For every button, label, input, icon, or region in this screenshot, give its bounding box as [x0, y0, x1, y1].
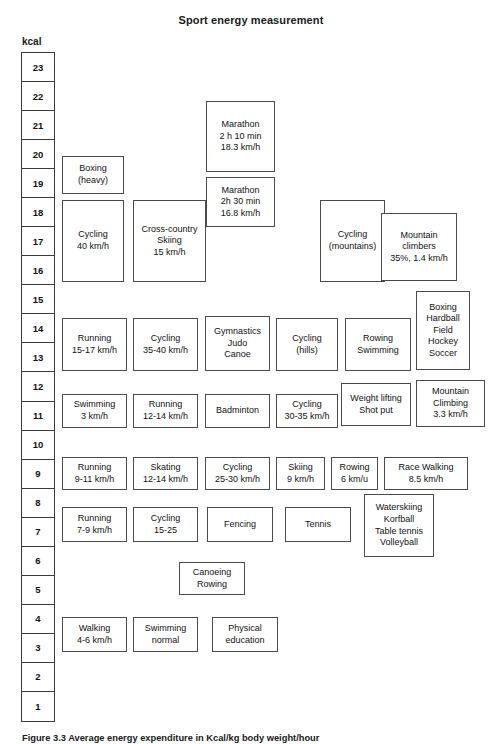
- activity-box-line: Canoeing: [193, 567, 232, 579]
- sport-energy-figure: Sport energy measurement kcal 2322212019…: [0, 0, 502, 744]
- axis-tick-label: 22: [33, 91, 44, 102]
- activity-box-line: 35%, 1.4 km/h: [390, 253, 448, 265]
- axis-tick-label: 17: [33, 236, 44, 247]
- activity-box-line: Cycling: [151, 513, 181, 525]
- activity-box-line: Hardball: [426, 313, 460, 325]
- activity-box: Cycling40 km/h: [62, 200, 124, 282]
- activity-box: Rowing6 km/u: [331, 457, 378, 490]
- axis-tick-21: 21: [22, 111, 54, 140]
- activity-box: Cycling(mountains): [320, 200, 385, 282]
- activity-box: Walking4-6 km/h: [62, 617, 127, 652]
- activity-box: BoxingHardballFieldHockeySoccer: [416, 291, 470, 370]
- axis-tick-12: 12: [22, 372, 54, 401]
- activity-box: Boxing(heavy): [62, 156, 124, 194]
- activity-box-line: 12-14 km/h: [143, 411, 188, 423]
- activity-box: Tennis: [285, 507, 351, 542]
- activity-box: Cycling25-30 km/h: [205, 457, 270, 490]
- axis-tick-label: 5: [35, 584, 40, 595]
- figure-caption: Figure 3.3 Average energy expenditure in…: [22, 733, 482, 743]
- axis-tick-15: 15: [22, 285, 54, 314]
- axis-tick-4: 4: [22, 605, 54, 634]
- activity-box-line: Cycling: [338, 229, 368, 241]
- activity-box-line: 7-9 km/h: [77, 525, 112, 537]
- axis-tick-label: 12: [33, 381, 44, 392]
- activity-box: Weight liftingShot put: [341, 383, 411, 426]
- axis-tick-label: 2: [35, 671, 40, 682]
- activity-box-line: Rowing: [339, 462, 369, 474]
- axis-tick-22: 22: [22, 82, 54, 111]
- activity-box-line: Cycling: [78, 229, 108, 241]
- axis-tick-label: 21: [33, 120, 44, 131]
- activity-box: Skating12-14 km/h: [133, 457, 198, 490]
- activity-box-line: 2 h 10 min: [219, 131, 261, 143]
- activity-box-line: Skiing: [288, 462, 313, 474]
- activity-box-line: education: [225, 635, 264, 647]
- activity-box-line: Boxing: [79, 163, 107, 175]
- activity-box-line: Hockey: [428, 336, 458, 348]
- activity-box-line: Walking: [79, 623, 111, 635]
- activity-box-line: Fencing: [224, 519, 256, 531]
- activity-box-line: Marathon: [221, 185, 259, 197]
- activity-box-line: (hills): [296, 345, 318, 357]
- activity-box-line: Physical: [228, 623, 262, 635]
- activity-box-line: Cross-country: [141, 224, 197, 236]
- axis-tick-label: 15: [33, 294, 44, 305]
- axis-tick-2: 2: [22, 663, 54, 692]
- axis-tick-label: 16: [33, 265, 44, 276]
- axis-tick-14: 14: [22, 314, 54, 343]
- activity-box: GymnasticsJudoCanoe: [205, 316, 270, 371]
- activity-box-line: Running: [78, 333, 112, 345]
- activity-box-line: 4-6 km/h: [77, 635, 112, 647]
- page-title: Sport energy measurement: [0, 14, 502, 26]
- activity-box-line: 6 km/u: [341, 474, 368, 486]
- activity-box-line: Skating: [150, 462, 180, 474]
- axis-tick-label: 18: [33, 207, 44, 218]
- activity-box-line: Field: [433, 325, 453, 337]
- axis-unit-label: kcal: [22, 36, 41, 47]
- activity-box-line: Rowing: [197, 579, 227, 591]
- axis-tick-label: 10: [33, 439, 44, 450]
- axis-tick-18: 18: [22, 198, 54, 227]
- activity-box-line: 2h 30 min: [221, 196, 261, 208]
- activity-box-line: Mountain: [400, 230, 437, 242]
- activity-box-line: 16.8 km/h: [221, 208, 261, 220]
- activity-box: Cycling35-40 km/h: [133, 318, 198, 371]
- axis-tick-1: 1: [22, 692, 54, 721]
- activity-box-line: 15-25: [154, 525, 177, 537]
- activity-box: Fencing: [207, 507, 273, 542]
- axis-tick-13: 13: [22, 343, 54, 372]
- activity-box-line: Race Walking: [398, 462, 453, 474]
- axis-tick-label: 7: [35, 526, 40, 537]
- activity-box-line: (heavy): [78, 175, 108, 187]
- activity-box-line: 15-17 km/h: [72, 345, 117, 357]
- axis-tick-10: 10: [22, 431, 54, 460]
- activity-box-line: Waterskiing: [376, 502, 423, 514]
- axis-tick-label: 3: [35, 642, 40, 653]
- axis-tick-label: 14: [33, 323, 44, 334]
- activity-box-line: normal: [152, 635, 180, 647]
- activity-box-line: Cycling: [151, 333, 181, 345]
- activity-box-line: 8.5 km/h: [409, 474, 444, 486]
- activity-box-line: Weight lifting: [350, 393, 401, 405]
- activity-box: Running7-9 km/h: [62, 507, 127, 542]
- activity-box-line: Judo: [228, 338, 248, 350]
- activity-box-line: 9-11 km/h: [75, 474, 114, 486]
- activity-box-line: Canoe: [224, 349, 251, 361]
- activity-box-line: Running: [149, 399, 183, 411]
- activity-box: WaterskiingKorfballTable tennisVolleybal…: [364, 494, 434, 557]
- activity-box: MountainClimbing3.3 km/h: [416, 380, 485, 427]
- axis-tick-label: 8: [35, 497, 40, 508]
- axis-tick-label: 23: [33, 62, 44, 73]
- axis-tick-7: 7: [22, 518, 54, 547]
- activity-box-line: climbers: [402, 241, 436, 253]
- activity-box-line: 18.3 km/h: [221, 142, 261, 154]
- activity-box: Cycling30-35 km/h: [276, 394, 338, 428]
- activity-box-line: Rowing: [363, 333, 393, 345]
- activity-box-line: Running: [78, 513, 112, 525]
- activity-box: RowingSwimming: [345, 318, 411, 371]
- axis-tick-label: 11: [33, 410, 43, 421]
- axis-tick-17: 17: [22, 227, 54, 256]
- activity-box: Physicaleducation: [212, 617, 278, 652]
- activity-box-line: Badminton: [216, 405, 259, 417]
- activity-box: Swimming3 km/h: [62, 394, 127, 428]
